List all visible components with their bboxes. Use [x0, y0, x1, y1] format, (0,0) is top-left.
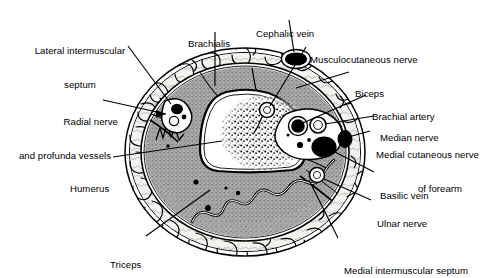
- label-brachialis: Brachialis: [188, 16, 230, 72]
- anatomy-figure: Lateral intermuscular septum Brachialis …: [0, 0, 504, 278]
- medial-cutaneous-nerve-bundle: [338, 131, 352, 148]
- label-cephalic-vein: Cephalic vein: [256, 6, 314, 62]
- basilic-vein-vessel: [312, 137, 336, 157]
- ulnar-nerve-bundle: [310, 168, 325, 183]
- label-humerus: Humerus: [70, 161, 109, 217]
- label-medial-intermuscular-septum: Medial intermuscular septum: [344, 243, 468, 278]
- label-triceps: Triceps: [110, 237, 141, 278]
- label-radial-nerve-and-profunda-vessels: Radial nerve and profunda vessels: [0, 94, 130, 184]
- brachial-artery-vessel: [289, 117, 308, 136]
